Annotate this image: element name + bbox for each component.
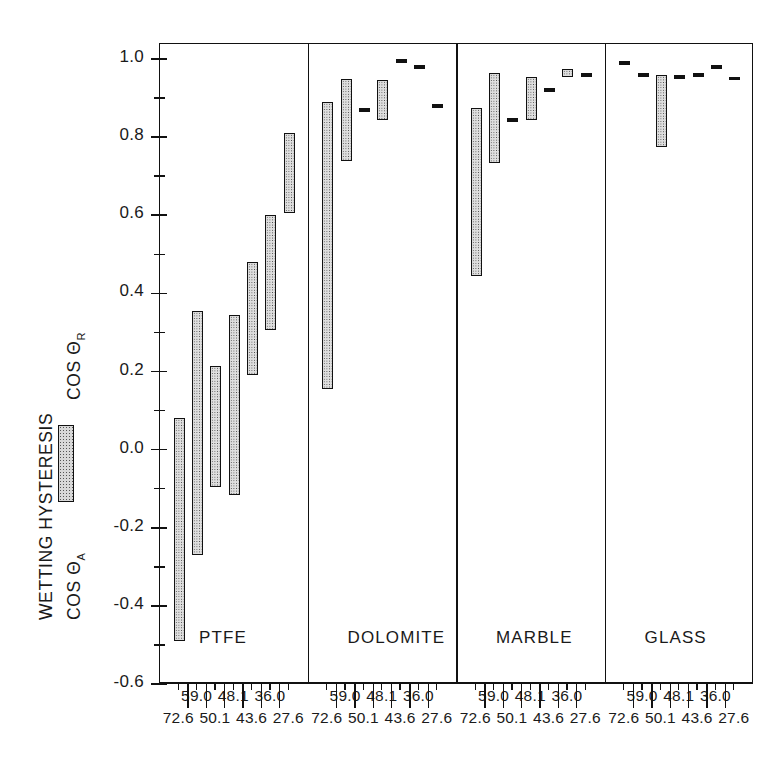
hysteresis-bar [432,104,443,108]
x-tick-label: 36.0 [551,687,582,705]
x-label-separator [279,683,280,708]
y-tick-major-inner [160,214,167,216]
x-tick-mark [585,683,586,690]
hysteresis-bar [471,108,482,276]
y-tick-label: 0.8 [74,125,144,145]
panel-label-marble: MARBLE [496,628,573,648]
figure-canvas: WETTING HYSTERESIS COS ΘR COS ΘA 1.00.80… [0,0,784,762]
x-label-separator [706,683,707,708]
x-tick-mark [363,683,364,690]
x-tick-label: 43.6 [236,709,267,727]
y-tick-major [151,136,160,138]
hysteresis-bar [396,59,407,63]
x-tick-mark [548,683,549,690]
hysteresis-bar [341,79,352,161]
x-tick-label: 36.0 [254,687,285,705]
panel-divider-dolomite [308,44,310,682]
x-label-separator [539,683,540,708]
y-tick-major-inner [160,58,167,60]
panel-divider-marble [456,44,458,682]
plot-area [159,43,753,683]
x-label-separator [206,683,207,708]
y-tick-major [151,214,160,216]
hysteresis-bar [359,108,370,112]
y-tick-label: -0.6 [74,672,144,692]
y-tick-minor-inner [160,332,165,334]
x-tick-mark [660,683,661,690]
x-tick-mark [326,683,327,690]
x-tick-label: 50.1 [645,709,676,727]
x-tick-mark [623,683,624,690]
x-label-separator [187,683,188,708]
x-label-separator [336,683,337,708]
y-tick-major [151,527,160,529]
hysteresis-bar [526,77,537,120]
x-label-separator [484,683,485,708]
x-tick-label: 72.6 [608,709,639,727]
y-tick-label: -0.4 [74,594,144,614]
hysteresis-bar [322,102,333,389]
y-tick-minor-inner [160,644,165,646]
x-axis: 72.659.050.148.143.636.027.672.659.050.1… [159,683,753,731]
x-label-separator [503,683,504,708]
x-label-separator [521,683,522,708]
x-tick-label: 72.6 [163,709,194,727]
x-label-separator [409,683,410,708]
panel-label-ptfe: PTFE [199,628,247,648]
y-tick-minor-inner [160,97,165,99]
x-tick-mark [511,683,512,690]
x-tick-label: 48.1 [366,687,397,705]
x-label-separator [688,683,689,708]
x-tick-label: 59.0 [627,687,658,705]
y-tick-minor-inner [160,566,165,568]
y-tick-major [151,293,160,295]
y-tick-major [151,371,160,373]
y-tick-label: 0.2 [74,360,144,380]
x-tick-label: 59.0 [181,687,212,705]
y-tick-label: 0.4 [74,281,144,301]
x-tick-label: 48.1 [515,687,546,705]
x-label-separator [224,683,225,708]
y-tick-major [151,605,160,607]
x-tick-label: 27.6 [273,709,304,727]
x-tick-label: 50.1 [496,709,527,727]
hysteresis-bar [210,366,221,487]
y-tick-major-inner [160,136,167,138]
y-tick-label: 0.0 [74,438,144,458]
hysteresis-bar [638,73,649,77]
y-tick-minor-inner [160,488,165,490]
x-tick-mark [733,683,734,690]
x-label-separator [373,683,374,708]
x-tick-label: 59.0 [478,687,509,705]
x-label-separator [242,683,243,708]
y-tick-minor-inner [160,175,165,177]
x-label-separator [576,683,577,708]
x-label-separator [670,683,671,708]
hysteresis-bar [656,75,667,147]
x-tick-label: 43.6 [533,709,564,727]
hysteresis-bar [174,418,185,641]
x-tick-mark [251,683,252,690]
x-label-separator [354,683,355,708]
x-tick-mark [178,683,179,690]
cos-theta-r-subscript: R [75,333,87,341]
x-tick-mark [288,683,289,690]
x-tick-label: 43.6 [682,709,713,727]
x-tick-mark [436,683,437,690]
x-label-separator [428,683,429,708]
hysteresis-bar [377,80,388,119]
cos-theta-a-subscript: A [75,553,87,560]
x-tick-label: 36.0 [403,687,434,705]
hysteresis-bar [562,69,573,77]
hysteresis-bar [581,73,592,77]
x-tick-mark [214,683,215,690]
x-label-separator [558,683,559,708]
hysteresis-bar [729,77,740,81]
hysteresis-bar [489,73,500,163]
y-axis-title-wetting-hysteresis: WETTING HYSTERESIS [36,413,57,620]
x-tick-label: 27.6 [421,709,452,727]
x-tick-label: 27.6 [570,709,601,727]
x-tick-label: 43.6 [385,709,416,727]
y-tick-minor-inner [160,254,165,256]
hysteresis-bar [544,88,555,92]
